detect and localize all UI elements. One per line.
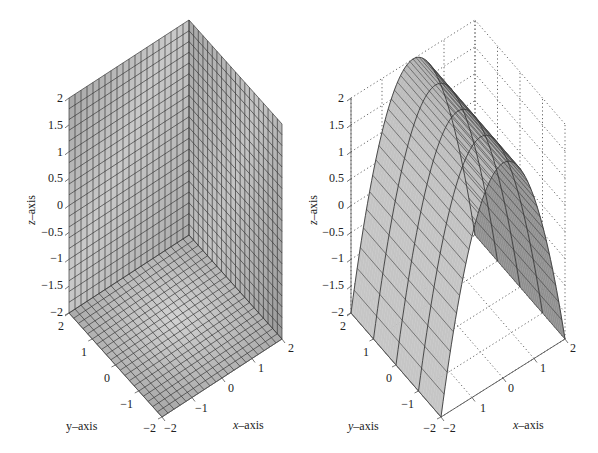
left-3d-plot: [0, 0, 598, 453]
right-surface: [347, 20, 568, 421]
left-surface: [65, 20, 285, 421]
